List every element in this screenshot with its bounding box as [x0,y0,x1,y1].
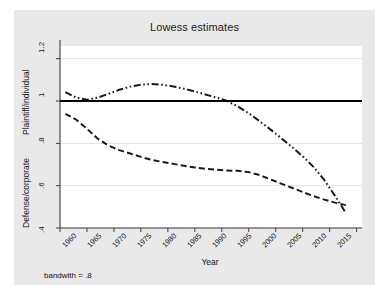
plot-area-background [60,46,362,228]
chart-figure: Lowess estimates Plaintiff/individual De… [14,10,375,285]
plot-canvas [14,10,375,285]
